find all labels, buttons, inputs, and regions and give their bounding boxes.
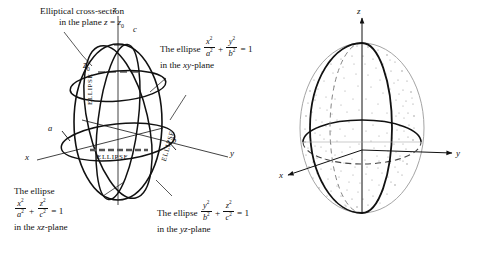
- curve-word-ellipse-1: ELLIPSE: [86, 74, 94, 105]
- xy-den2-exp: 2: [233, 47, 236, 53]
- xz-op: +: [29, 206, 34, 217]
- xy-num1-exp: 2: [210, 35, 213, 41]
- yz-den2-exp: 2: [229, 211, 232, 217]
- xz-tail-plane: xz: [37, 222, 45, 232]
- callout-cross-section: Elliptical cross-section in the plane z …: [6, 6, 124, 29]
- cross-section-val-sub: 0: [121, 22, 124, 28]
- cross-section-line1: Elliptical cross-section: [40, 6, 124, 16]
- leader-yz-ellipse: [156, 180, 172, 196]
- xy-frac-1: x2 a2: [204, 36, 215, 58]
- right-figure-group: [288, 18, 452, 213]
- yz-frac-1: y2 b2: [201, 200, 212, 222]
- xz-tail-prefix: in the: [14, 222, 37, 232]
- curve-word-ellipse-2: ELLIPSE: [97, 153, 128, 161]
- cross-section-eq: =: [108, 17, 118, 27]
- xy-den1-exp: 2: [210, 47, 213, 53]
- xy-frac-2: y2 b2: [226, 36, 237, 58]
- xz-den-1: a2: [15, 209, 26, 219]
- yz-den-1: b2: [201, 212, 212, 222]
- xy-tail: in the xy-plane: [160, 60, 253, 71]
- callout-xz-ellipse: The ellipse x2 a2 + z2 c2 = 1 in the xz-…: [14, 186, 68, 232]
- yz-den1-exp: 2: [207, 211, 210, 217]
- callout-xy-ellipse: The ellipse x2 a2 + y2 b2 = 1 in the xy-…: [160, 36, 253, 71]
- xy-tail-suffix: -plane: [191, 60, 214, 70]
- yz-num2-exp: 2: [229, 199, 232, 205]
- xy-den-1: a2: [204, 48, 215, 58]
- yz-equals: = 1: [237, 208, 249, 219]
- xz-den-2: c2: [38, 209, 48, 219]
- xz-frac-2: z2 c2: [38, 198, 48, 220]
- xz-lead: The ellipse: [14, 186, 55, 196]
- leader-xy-ellipse-2: [170, 95, 186, 120]
- xz-frac-1: x2 a2: [15, 198, 26, 220]
- xy-tail-prefix: in the: [160, 60, 183, 70]
- xz-equation: x2 a2 + z2 c2 = 1: [14, 198, 68, 220]
- xz-den1-exp: 2: [21, 208, 24, 214]
- xz-num2-exp: 2: [43, 197, 46, 203]
- xy-tail-plane: xy: [183, 60, 191, 70]
- yz-tail-plane: yz: [180, 224, 188, 234]
- xy-num2-exp: 2: [232, 35, 235, 41]
- yz-tail-suffix: -plane: [188, 224, 211, 234]
- right-axis-label-y: y: [456, 148, 460, 158]
- xz-lead-line: The ellipse: [14, 186, 68, 197]
- xz-num1-exp: 2: [21, 197, 24, 203]
- left-axis-label-x: x: [25, 152, 29, 162]
- xy-lead: The ellipse: [160, 44, 201, 55]
- xy-den-2: b2: [226, 48, 237, 58]
- figure-canvas: z x y c a b z0 ELLIPSE ELLIPSE ELLIPSE E…: [0, 0, 480, 255]
- z0-sub: 0: [87, 66, 90, 72]
- right-axis-label-x: x: [279, 170, 283, 180]
- right-axis-label-z: z: [357, 6, 361, 16]
- left-intercept-label-a: a: [48, 124, 52, 134]
- callout-yz-ellipse: The ellipse y2 b2 + z2 c2 = 1 in the yz-…: [157, 200, 249, 235]
- cross-section-line2-prefix: in the plane: [59, 17, 104, 27]
- z0-plane-label: z0: [83, 60, 90, 73]
- yz-den-2: c2: [223, 212, 233, 222]
- yz-lead: The ellipse: [157, 208, 198, 219]
- xz-equals: = 1: [51, 206, 63, 217]
- xy-equals: = 1: [241, 44, 253, 55]
- xy-op: +: [218, 44, 223, 55]
- xz-den2-exp: 2: [43, 208, 46, 214]
- yz-num1-exp: 2: [207, 199, 210, 205]
- left-intercept-label-c: c: [133, 25, 137, 35]
- xz-tail-suffix: -plane: [45, 222, 68, 232]
- yz-equation-line: The ellipse y2 b2 + z2 c2 = 1: [157, 200, 249, 222]
- left-axis-label-y: y: [230, 148, 234, 158]
- xz-tail: in the xz-plane: [14, 222, 68, 233]
- yz-tail: in the yz-plane: [157, 224, 249, 235]
- yz-frac-2: z2 c2: [223, 200, 233, 222]
- yz-tail-prefix: in the: [157, 224, 180, 234]
- yz-op: +: [215, 208, 220, 219]
